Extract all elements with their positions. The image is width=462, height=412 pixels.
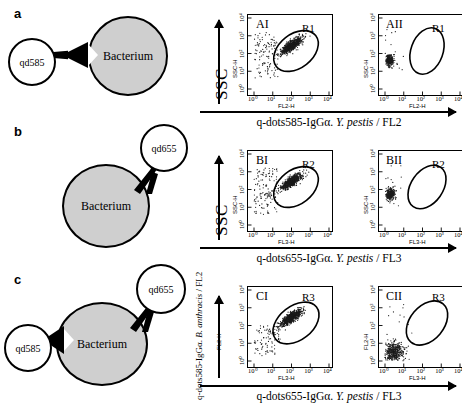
caption-alpha: α [194,342,204,347]
axis-name-x-ci: FL3-H [278,375,295,381]
y-tick-label: 10¹ [369,67,376,75]
y-tick-label: 10² [369,185,376,193]
x-tick-label: 10³ [435,231,443,238]
y-tick-label: 10⁴ [238,285,245,294]
gate-label-CII: R3 [432,291,445,303]
x-tick-label: 10⁰ [248,95,258,103]
x-tick-label: 10² [286,367,294,374]
x-tick-label: 10² [417,231,425,238]
schematic-c: Bacterium qd585 qd655 [0,262,196,412]
y-tick-label: 10² [369,321,376,329]
fl2-axis-banner-c: q-dots585-IgGα. B. anthracis / FL2 [186,276,220,396]
x-tick-label: 10⁴ [454,95,462,102]
x-axis-arrow-icon [200,247,456,249]
x-tick-label: 10¹ [267,95,275,102]
y-tick-label: 10³ [369,303,376,311]
fl2-banner-label: q-dots585-IgGα. B. anthracis / FL2 [194,272,204,400]
caption-suffix: / FL3 [373,390,401,402]
caption-prefix: q-dots655-IgG [257,390,325,402]
axis-name-x-ai: FL2-H [278,103,295,109]
x-tick-label: 10³ [435,95,443,102]
x-tick-label: 10³ [304,231,312,238]
panel-c: c Bacterium qd585 qd655 q-dots585-IgGα. … [0,262,462,412]
axis-name-x-bii: FL3-H [409,239,426,245]
y-tick-label: 10² [369,49,376,57]
caption-sep: . [194,338,204,343]
qdot-label: qd655 [152,143,177,154]
x-tick-label: 10² [286,95,294,102]
qdot-circle-qd655: qd655 [140,124,188,172]
y-tick-label: 10⁴ [369,149,376,158]
caption-suffix: / FL2 [194,272,204,294]
x-tick-label: 10³ [435,367,443,374]
panel-a: a Bacterium qd585 SSC SSC-H SSC-H AI R1 … [0,0,462,122]
plot-label-BII: BII [386,153,402,168]
y-tick-label: 10³ [238,31,245,39]
y-tick-label: 10⁰ [238,84,246,94]
ssc-axis-banner-b: SSC [196,144,230,244]
schematic-b: Bacterium qd655 [0,122,196,262]
x-tick-label: 10⁰ [248,367,258,375]
caption-organism: B. anthracis [194,294,204,338]
x-tick-label: 10¹ [267,231,275,238]
x-tick-label: 10² [286,231,294,238]
ssc-axis-banner-a: SSC [196,8,230,108]
x-tick-label: 10⁴ [454,367,462,374]
x-axis-arrow-icon [200,385,456,387]
gate-label-BII: R2 [432,158,445,170]
axis-name-x-cii: FL3-H [409,375,426,381]
plot-label-CI: CI [256,289,268,304]
axis-name-x-aii: FL2-H [409,103,426,109]
y-tick-label: 10¹ [369,339,376,347]
gate-label-AI: R1 [302,22,315,34]
x-tick-label: 10² [417,367,425,374]
axis-name-y-c-banner: FL2-H [216,333,222,350]
x-tick-label: 10² [417,95,425,102]
y-tick-label: 10⁴ [369,13,376,22]
panel-b: b Bacterium qd655 SSC SSC-H SSC-H BI R2 … [0,122,462,262]
y-tick-label: 10³ [238,167,245,175]
x-tick-label: 10⁰ [379,231,389,239]
y-tick-label: 10² [238,321,245,329]
x-tick-label: 10⁴ [323,367,332,374]
qdot-circle-qd655: qd655 [136,264,186,314]
y-tick-label: 10⁰ [238,356,246,366]
y-tick-label: 10³ [238,303,245,311]
x-tick-label: 10¹ [398,367,406,374]
x-tick-label: 10⁰ [379,367,389,375]
schematic-a: Bacterium qd585 [0,0,196,122]
ssc-arrow-icon [218,156,220,240]
y-tick-label: 10⁰ [238,220,246,230]
bacterium-label: Bacterium [103,49,153,64]
x-tick-label: 10⁴ [323,95,332,102]
y-tick-label: 10² [238,185,245,193]
x-tick-label: 10⁴ [454,231,462,238]
y-tick-label: 10¹ [238,203,245,211]
bacterium-label: Bacterium [77,337,127,352]
y-tick-label: 10¹ [238,339,245,347]
qdot-label: qd585 [16,343,41,354]
y-tick-label: 10⁴ [238,13,245,22]
qdot-circle-qd585: qd585 [4,324,52,372]
x-tick-label: 10⁴ [323,231,332,238]
plot-label-AI: AI [256,17,269,32]
plot-label-AII: AII [386,17,403,32]
caption-organism: Y. pestis [336,390,373,402]
x-tick-label: 10¹ [398,95,406,102]
y-tick-label: 10¹ [369,203,376,211]
y-tick-label: 10² [238,49,245,57]
x-tick-label: 10³ [304,95,312,102]
qdot-label: qd585 [20,57,45,68]
gate-label-CI: R3 [302,291,315,303]
gate-label-BI: R2 [302,158,315,170]
x-tick-label: 10⁰ [248,231,258,239]
qdot-label: qd655 [149,284,174,295]
axis-name-x-bi: FL3-H [278,239,295,245]
qdot-circle-qd585: qd585 [8,38,56,86]
x-tick-label: 10¹ [267,367,275,374]
ssc-banner-label: SSC [212,204,232,236]
y-tick-label: 10⁰ [369,220,377,230]
y-tick-label: 10⁰ [369,84,377,94]
plot-label-CII: CII [386,289,402,304]
x-tick-label: 10¹ [398,231,406,238]
